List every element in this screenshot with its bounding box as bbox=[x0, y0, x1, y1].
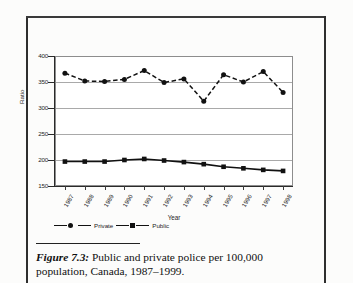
x-tick-1997 bbox=[263, 186, 264, 190]
chart-legend: Private Public bbox=[54, 222, 171, 229]
data-point-public-1998 bbox=[281, 169, 286, 174]
legend-line-public-b bbox=[136, 225, 149, 226]
data-point-private-1995 bbox=[221, 72, 226, 77]
y-tick-200 bbox=[48, 160, 54, 161]
data-point-public-1996 bbox=[241, 166, 246, 171]
data-point-public-1994 bbox=[201, 162, 206, 167]
x-tick-1995 bbox=[224, 186, 225, 190]
y-tick-250 bbox=[48, 134, 54, 135]
legend-line-public-a bbox=[116, 225, 129, 226]
data-point-private-1997 bbox=[261, 69, 266, 74]
data-point-private-1988 bbox=[82, 78, 87, 83]
data-point-public-1995 bbox=[221, 164, 226, 169]
series-line-public bbox=[65, 159, 283, 171]
x-tick-1991 bbox=[144, 186, 145, 190]
data-point-public-1991 bbox=[142, 157, 147, 162]
x-tick-1994 bbox=[204, 186, 205, 190]
series-layer bbox=[30, 26, 320, 231]
data-point-public-1989 bbox=[102, 159, 107, 164]
data-point-private-1993 bbox=[181, 76, 186, 81]
legend-label-private: Private bbox=[92, 222, 115, 229]
data-point-private-1992 bbox=[162, 80, 167, 85]
scanned-page: Ratio 400350300250200150 Year Private Pu… bbox=[0, 0, 353, 283]
data-point-private-1989 bbox=[102, 79, 107, 84]
data-point-public-1990 bbox=[122, 158, 127, 163]
x-tick-1993 bbox=[184, 186, 185, 190]
caption-line-2: population, Canada, 1987–1999. bbox=[36, 264, 306, 278]
x-tick-1988 bbox=[85, 186, 86, 190]
y-tick-300 bbox=[48, 108, 54, 109]
y-tick-150 bbox=[48, 186, 54, 187]
data-point-private-1996 bbox=[241, 80, 246, 85]
y-tick-400 bbox=[48, 56, 54, 57]
caption-rule bbox=[36, 243, 140, 244]
x-tick-1990 bbox=[124, 186, 125, 190]
data-point-private-1990 bbox=[122, 77, 127, 82]
series-line-private bbox=[65, 71, 283, 102]
caption-line-1: Public and private police per 100,000 bbox=[92, 251, 263, 263]
line-chart: Ratio 400350300250200150 Year Private Pu… bbox=[30, 26, 320, 231]
legend-marker-private bbox=[68, 223, 73, 228]
x-tick-1996 bbox=[243, 186, 244, 190]
x-tick-1987 bbox=[65, 186, 66, 190]
data-point-public-1993 bbox=[182, 160, 187, 165]
figure-label: Figure 7.3: bbox=[36, 251, 89, 263]
x-tick-1998 bbox=[283, 186, 284, 190]
figure-caption: Figure 7.3: Public and private police pe… bbox=[36, 250, 306, 278]
legend-line-private-b bbox=[78, 225, 91, 226]
x-tick-1989 bbox=[105, 186, 106, 190]
data-point-public-1988 bbox=[82, 159, 87, 164]
legend-line-private-a bbox=[54, 225, 67, 226]
legend-label-public: Public bbox=[150, 222, 171, 229]
y-tick-350 bbox=[48, 82, 54, 83]
data-point-public-1997 bbox=[261, 168, 266, 173]
data-point-private-1991 bbox=[142, 68, 147, 73]
data-point-private-1987 bbox=[62, 71, 67, 76]
x-tick-1992 bbox=[164, 186, 165, 190]
data-point-private-1994 bbox=[201, 99, 206, 104]
page-border-right bbox=[324, 16, 326, 283]
data-point-public-1987 bbox=[63, 159, 68, 164]
data-point-private-1998 bbox=[281, 90, 286, 95]
data-point-public-1992 bbox=[162, 158, 167, 163]
legend-marker-public bbox=[130, 223, 135, 228]
page-border-top bbox=[26, 16, 326, 18]
